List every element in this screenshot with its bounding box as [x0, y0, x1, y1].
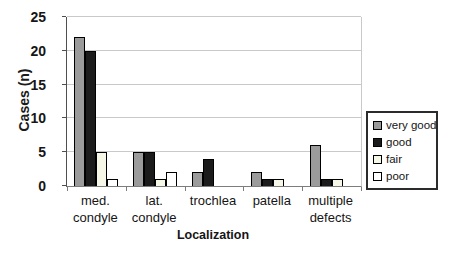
- bar-very-good-multiple-defects: [310, 145, 321, 186]
- legend-label-fair: fair: [386, 153, 402, 165]
- category-label-line: condyle: [125, 209, 184, 226]
- y-tick-label-15: 15: [30, 78, 46, 92]
- category-label-line: multiple: [301, 192, 360, 209]
- y-axis-tick-labels: 0510152025: [0, 17, 54, 186]
- legend-item-good: good: [373, 136, 434, 148]
- category-label-multiple-defects: multipledefects: [301, 192, 360, 226]
- category-label-patella: patella: [242, 192, 301, 226]
- x-axis-title: Localization: [66, 228, 360, 242]
- y-tick-label-5: 5: [38, 145, 46, 159]
- legend-swatch-good: [373, 138, 382, 147]
- bar-group-multiple-defects: [302, 17, 361, 186]
- bar-very-good-med-condyle: [74, 37, 85, 186]
- legend-label-poor: poor: [386, 170, 409, 182]
- y-axis-tick: [62, 16, 66, 17]
- bar-poor-med-condyle: [107, 179, 118, 186]
- category-label-med-condyle: med.condyle: [66, 192, 125, 226]
- legend-label-very-good: very good: [386, 119, 437, 131]
- bar-group-med-condyle: [67, 17, 126, 186]
- y-tick-label-0: 0: [38, 179, 46, 193]
- category-label-lat-condyle: lat.condyle: [125, 192, 184, 226]
- x-axis-tick: [243, 187, 244, 191]
- bar-fair-multiple-defects: [332, 179, 343, 186]
- bar-chart-figure: Cases (n) 0510152025 med.condylelat.cond…: [0, 0, 456, 261]
- legend-swatch-very-good: [373, 121, 382, 130]
- bar-poor-lat-condyle: [166, 172, 177, 186]
- bar-very-good-lat-condyle: [133, 152, 144, 186]
- y-axis-tick: [62, 185, 66, 186]
- y-axis-tick: [62, 151, 66, 152]
- bar-good-med-condyle: [85, 51, 96, 186]
- category-label-line: lat.: [125, 192, 184, 209]
- bar-good-lat-condyle: [144, 152, 155, 186]
- legend-item-fair: fair: [373, 153, 434, 165]
- legend-item-very-good: very good: [373, 119, 434, 131]
- bar-group-patella: [243, 17, 302, 186]
- bar-group-lat-condyle: [126, 17, 185, 186]
- bar-groups: [67, 17, 361, 186]
- category-label-trochlea: trochlea: [184, 192, 243, 226]
- legend-label-good: good: [386, 136, 412, 148]
- bar-very-good-patella: [251, 172, 262, 186]
- category-label-line: condyle: [66, 209, 125, 226]
- category-label-line: defects: [301, 209, 360, 226]
- category-label-line: patella: [242, 192, 301, 209]
- y-axis-tick: [62, 117, 66, 118]
- legend: very goodgoodfairpoor: [366, 111, 438, 190]
- y-axis-tick: [62, 84, 66, 85]
- y-tick-label-10: 10: [30, 111, 46, 125]
- bar-very-good-trochlea: [192, 172, 203, 186]
- x-axis-tick: [67, 187, 68, 191]
- plot-area: [66, 17, 362, 187]
- y-tick-label-20: 20: [30, 44, 46, 58]
- bar-fair-lat-condyle: [155, 179, 166, 186]
- legend-item-poor: poor: [373, 170, 434, 182]
- bar-group-trochlea: [185, 17, 244, 186]
- y-tick-label-25: 25: [30, 10, 46, 24]
- legend-swatch-poor: [373, 172, 382, 181]
- x-axis-category-labels: med.condylelat.condyletrochleapatellamul…: [66, 192, 360, 226]
- x-axis-tick: [185, 187, 186, 191]
- legend-swatch-fair: [373, 155, 382, 164]
- bar-good-multiple-defects: [321, 179, 332, 186]
- bar-fair-med-condyle: [96, 152, 107, 186]
- x-axis-tick: [302, 187, 303, 191]
- category-label-line: trochlea: [184, 192, 243, 209]
- bar-fair-patella: [273, 179, 284, 186]
- bar-good-trochlea: [203, 159, 214, 186]
- x-axis-tick: [361, 187, 362, 191]
- bar-good-patella: [262, 179, 273, 186]
- x-axis-tick: [126, 187, 127, 191]
- category-label-line: med.: [66, 192, 125, 209]
- y-axis-tick: [62, 50, 66, 51]
